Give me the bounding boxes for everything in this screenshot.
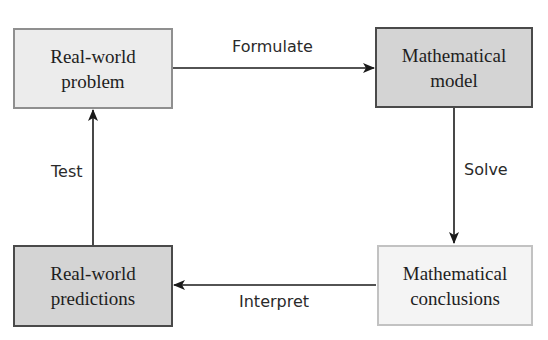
node-line-1: Real-world (50, 261, 135, 286)
node-line-1: Mathematical (402, 43, 506, 68)
node-line-1: Real-world (50, 44, 135, 69)
node-line-2: model (402, 68, 506, 93)
node-line-2: conclusions (403, 286, 507, 311)
node-line-1: Mathematical (403, 261, 507, 286)
node-mathematical-conclusions: Mathematical conclusions (377, 245, 533, 326)
node-line-2: problem (50, 69, 135, 94)
node-real-world-problem: Real-world problem (13, 28, 173, 109)
node-real-world-predictions: Real-world predictions (13, 245, 173, 327)
edge-label-test: Test (51, 162, 83, 181)
edge-label-interpret: Interpret (239, 292, 309, 311)
edge-label-formulate: Formulate (232, 37, 313, 56)
node-line-2: predictions (50, 286, 135, 311)
node-mathematical-model: Mathematical model (375, 27, 533, 108)
edge-label-solve: Solve (464, 160, 508, 179)
